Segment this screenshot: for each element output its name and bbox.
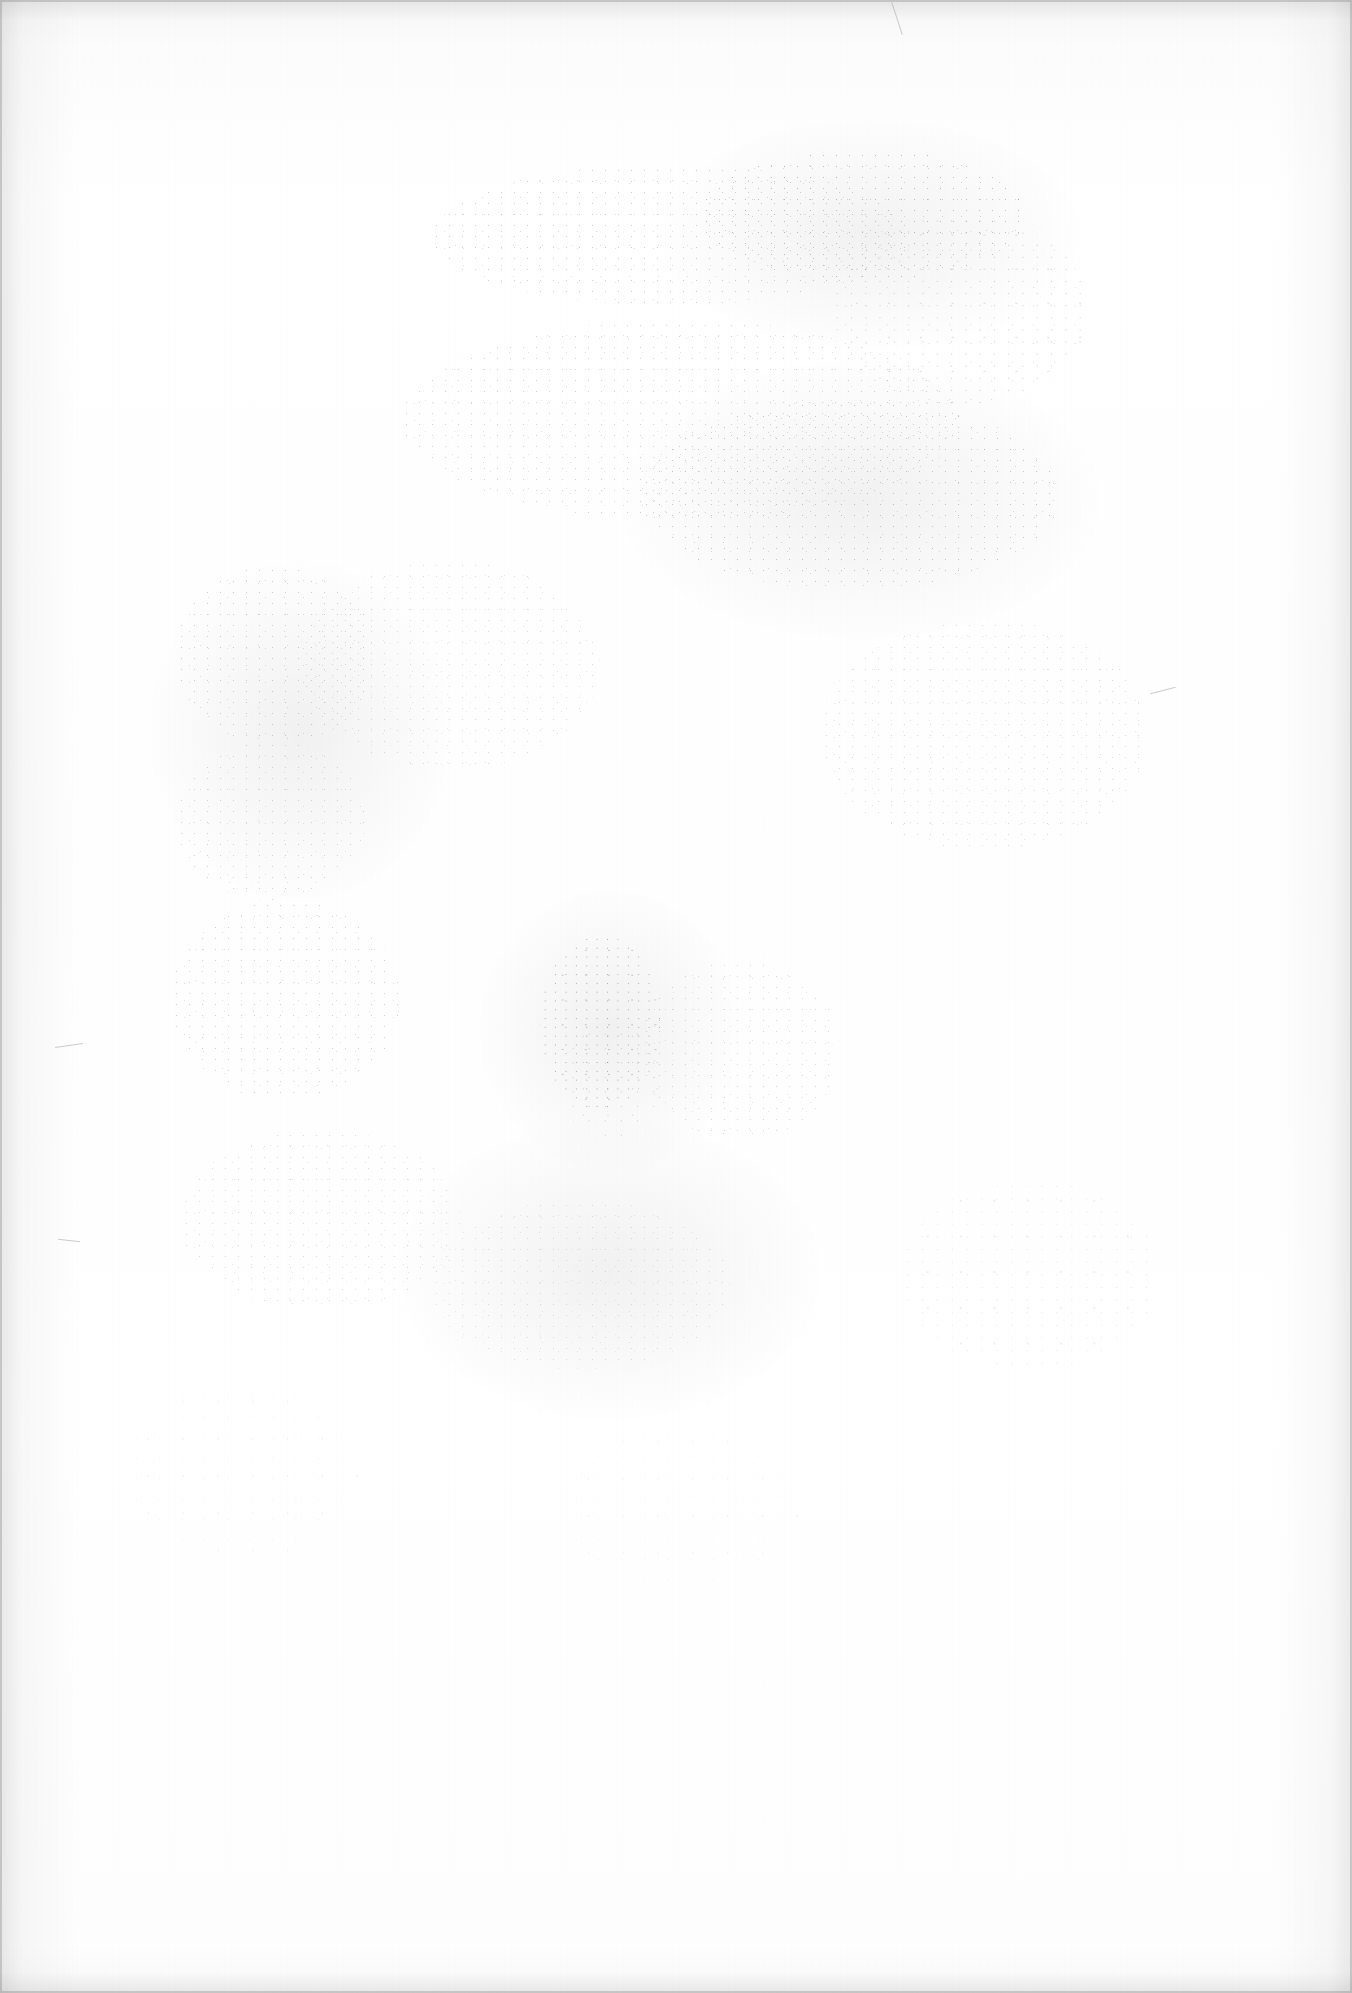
scanner-streak-texture [0,0,1352,1993]
scanned-page: Scanned page containing no printed text … [0,0,1352,1993]
